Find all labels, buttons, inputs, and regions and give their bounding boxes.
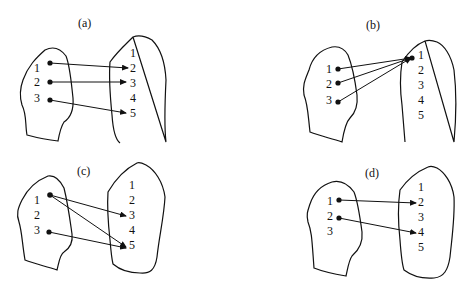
mapping-diagram-d	[232, 142, 464, 284]
domain-element: 2	[327, 210, 333, 222]
domain-element: 3	[326, 94, 332, 106]
codomain-element: 5	[418, 241, 424, 253]
panel-label: (a)	[78, 16, 91, 31]
panel-label: (b)	[366, 18, 380, 33]
codomain-element: 3	[129, 209, 135, 221]
codomain-set-outline	[108, 163, 165, 274]
codomain-element: 3	[130, 77, 136, 89]
panel-label: (c)	[77, 164, 90, 179]
codomain-element: 1	[418, 49, 424, 61]
codomain-set-outline	[401, 40, 456, 142]
mapping-diagram-b	[232, 0, 464, 142]
domain-element: 1	[327, 195, 333, 207]
domain-element: 1	[326, 63, 332, 75]
codomain-element: 5	[130, 107, 136, 119]
codomain-element: 4	[130, 92, 136, 104]
domain-element: 3	[327, 225, 333, 237]
domain-element: 2	[34, 209, 40, 221]
codomain-set-outline	[110, 36, 166, 143]
domain-element: 3	[34, 92, 40, 104]
domain-set-outline	[307, 181, 362, 276]
domain-set-outline	[18, 176, 73, 270]
codomain-element: 2	[129, 194, 135, 206]
codomain-element: 4	[418, 226, 424, 238]
domain-element: 3	[34, 224, 40, 236]
codomain-set-outline	[399, 166, 455, 278]
codomain-element: 2	[418, 64, 424, 76]
diagram-panel-c: (c) 1 2 3 1 2 3 4 5	[0, 142, 232, 284]
codomain-element: 1	[130, 47, 136, 59]
codomain-element: 5	[418, 109, 424, 121]
codomain-element: 2	[130, 62, 136, 74]
codomain-element: 3	[418, 211, 424, 223]
domain-set-outline	[20, 48, 73, 141]
panel-label: (d)	[365, 166, 379, 181]
codomain-element: 1	[418, 181, 424, 193]
codomain-element: 3	[418, 79, 424, 91]
domain-element: 1	[34, 62, 40, 74]
codomain-element: 5	[129, 239, 135, 251]
domain-element: 1	[34, 194, 40, 206]
domain-element: 2	[326, 78, 332, 90]
diagram-panel-d: (d) 1 2 3 1 2 3 4 5	[232, 142, 464, 284]
diagram-panel-b: (b) 1 2 3 1 2 3 4 5	[232, 0, 464, 142]
codomain-element: 4	[418, 94, 424, 106]
codomain-element: 4	[129, 224, 135, 236]
domain-element: 2	[34, 76, 40, 88]
codomain-element: 2	[418, 196, 424, 208]
diagram-panel-a: (a) 1 2 3 1 2 3 4 5	[0, 0, 232, 142]
codomain-element: 1	[129, 179, 135, 191]
